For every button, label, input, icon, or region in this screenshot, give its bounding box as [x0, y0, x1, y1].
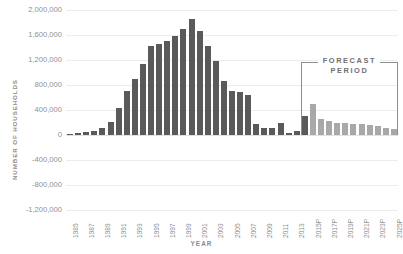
x-axis-tick-label: 1989	[105, 223, 112, 238]
y-axis-tick-label: -400,000	[14, 156, 62, 164]
x-axis-tick-label: 2003	[218, 223, 225, 238]
bar	[294, 131, 300, 135]
x-axis-tick-label: 2013	[299, 223, 306, 238]
bar	[132, 79, 138, 135]
bar	[229, 91, 235, 135]
gridline	[66, 210, 398, 211]
x-axis-title: YEAR	[0, 240, 403, 247]
bar	[278, 123, 284, 135]
bar	[205, 46, 211, 135]
x-axis-tick-label: 2021P	[364, 219, 371, 238]
bar	[245, 95, 251, 135]
y-axis-tick-label: 1,200,000	[14, 56, 62, 64]
bar	[180, 29, 186, 135]
y-axis-tick-label: 0	[14, 131, 62, 139]
bar	[237, 92, 243, 135]
bar	[140, 64, 146, 135]
x-axis-tick-label: 2011	[283, 224, 290, 238]
bar	[286, 133, 292, 135]
bar	[197, 31, 203, 135]
y-axis-title-container: NUMBER OF HOUSEHOLDS	[0, 0, 14, 205]
x-axis-tick-label: 2009	[267, 223, 274, 238]
x-axis-tick-label: 2017P	[332, 219, 339, 238]
forecast-label-line2: PERIOD	[318, 66, 380, 76]
bar	[75, 133, 81, 135]
x-axis-tick-label: 1999	[186, 223, 193, 238]
x-axis-tick-label: 1987	[89, 223, 96, 238]
bar	[116, 108, 122, 135]
x-axis-tick-label: 2023P	[380, 219, 387, 238]
y-axis-tick-label: 2,000,000	[14, 6, 62, 14]
x-axis-tick-label: 2007	[251, 223, 258, 238]
y-axis-tick-label: -1,200,000	[14, 206, 62, 214]
bar	[148, 46, 154, 135]
x-axis-tick-label: 1985	[73, 223, 80, 238]
forecast-label-line1: FORECAST	[318, 56, 380, 66]
y-axis-tick-label: 800,000	[14, 81, 62, 89]
x-axis-tick-label: 2019P	[348, 219, 355, 238]
bar-chart: NUMBER OF HOUSEHOLDS 2,000,0001,600,0001…	[0, 0, 403, 254]
y-axis-tick-label: 1,600,000	[14, 31, 62, 39]
bar	[172, 36, 178, 135]
x-axis-tick-label: 2025P	[397, 219, 403, 238]
bar	[99, 128, 105, 135]
x-axis-tick-label: 2001	[202, 223, 209, 238]
x-axis-tick-labels: 1985198719891991199319951997199920012003…	[66, 212, 398, 240]
bar	[221, 81, 227, 135]
y-axis-tick-label: 400,000	[14, 106, 62, 114]
bar	[269, 128, 275, 135]
bar	[124, 91, 130, 135]
plot-area: FORECASTPERIOD	[66, 10, 398, 210]
x-axis-tick-label: 2015P	[316, 219, 323, 238]
bar	[91, 131, 97, 135]
bar	[156, 44, 162, 135]
y-axis-tick-labels: 2,000,0001,600,0001,200,000800,000400,00…	[14, 0, 62, 215]
x-axis-tick-label: 2005	[235, 223, 242, 238]
bar	[67, 134, 73, 135]
y-axis-tick-label: -800,000	[14, 181, 62, 189]
bar	[189, 19, 195, 135]
bar	[213, 61, 219, 135]
bar	[108, 122, 114, 135]
x-axis-tick-label: 1997	[170, 223, 177, 238]
bar	[253, 124, 259, 135]
forecast-period-label: FORECASTPERIOD	[318, 56, 380, 76]
x-axis-tick-label: 1991	[121, 223, 128, 238]
bar	[164, 41, 170, 135]
x-axis-tick-label: 1993	[137, 223, 144, 238]
bar	[261, 128, 267, 136]
x-axis-tick-label: 1995	[154, 223, 161, 238]
bar	[83, 132, 89, 135]
